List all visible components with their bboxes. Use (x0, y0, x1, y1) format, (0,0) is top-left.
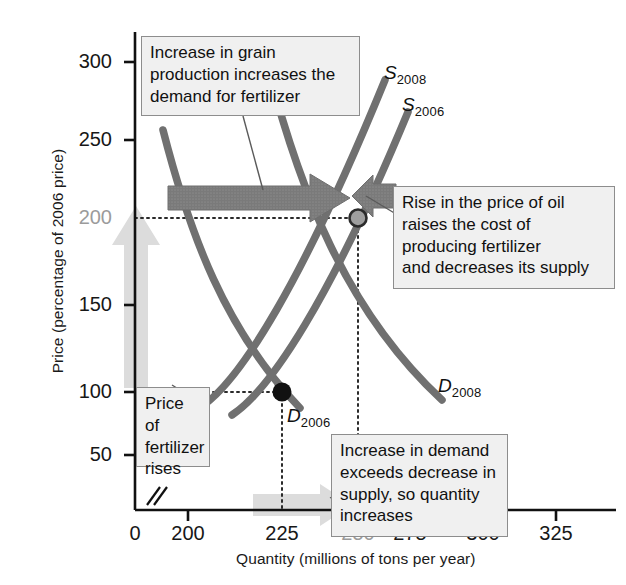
y-tick-150: 150 (56, 293, 112, 316)
y-tick-50: 50 (56, 443, 112, 466)
y-tick-200: 200 (56, 206, 112, 229)
x-tick-325: 325 (526, 522, 586, 545)
original-equilibrium-point (273, 383, 292, 402)
supply-2008-subscript: 2008 (397, 72, 427, 87)
supply-2006-letter: S (402, 94, 415, 115)
supply-2006-label: S2006 (402, 94, 444, 119)
supply-2008-label: S2008 (384, 62, 426, 87)
callout-quantity-increases: Increase in demand exceeds decrease in s… (331, 434, 508, 537)
demand-2006-label: D2006 (287, 405, 330, 430)
callout-demand-increase: Increase in grain production increases t… (141, 36, 360, 116)
demand-2008-letter: D (438, 375, 452, 396)
callout-price-rises: Price of fertilizer rises (136, 387, 210, 467)
demand-callout-leader (243, 116, 263, 190)
y-tick-300: 300 (56, 50, 112, 73)
demand-shift-arrow (168, 174, 350, 222)
supply-2008-letter: S (384, 62, 397, 83)
y-tick-250: 250 (56, 128, 112, 151)
x-tick-0: 0 (105, 522, 165, 545)
y-axis-title: Price (percentage of 2006 price) (49, 111, 67, 411)
new-equilibrium-point (350, 210, 367, 227)
supply-2006-curve (232, 112, 408, 415)
y-tick-100: 100 (56, 380, 112, 403)
demand-2008-label: D2008 (438, 375, 481, 400)
x-tick-225: 225 (252, 522, 312, 545)
axis-break-marks (147, 487, 167, 505)
demand-2006-subscript: 2006 (301, 415, 331, 430)
demand-2008-subscript: 2008 (452, 385, 482, 400)
x-axis-title: Quantity (millions of tons per year) (236, 550, 476, 568)
supply-demand-figure: Price (percentage of 2006 price) Quantit… (0, 0, 626, 585)
x-tick-200: 200 (158, 522, 218, 545)
callout-supply-decrease: Rise in the price of oil raises the cost… (393, 186, 615, 289)
supply-2006-subscript: 2006 (415, 104, 445, 119)
demand-2006-letter: D (287, 405, 301, 426)
